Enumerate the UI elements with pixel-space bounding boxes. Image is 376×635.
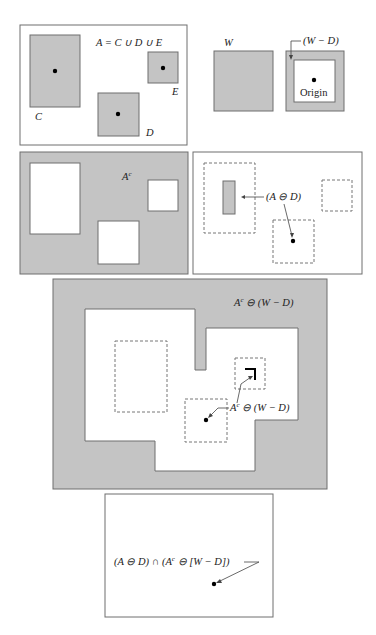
panel-intersection: (A ⊖ D) ∩ (Ac ⊖ [W − D]) bbox=[105, 494, 273, 617]
label-c: C bbox=[35, 111, 43, 122]
origin-dot bbox=[116, 112, 120, 116]
hole-c bbox=[30, 163, 80, 234]
hit-or-miss-result-dot bbox=[212, 582, 216, 586]
panel-erosion-ac-by-wd: Ac ⊖ (W − D) Ac ⊖ (W − D) bbox=[53, 279, 327, 489]
erosion-result-dot bbox=[291, 239, 295, 243]
label-e: E bbox=[171, 86, 179, 97]
wd-label: (W − D) bbox=[303, 35, 339, 47]
hole-d bbox=[98, 221, 139, 264]
result-dot bbox=[204, 418, 208, 422]
origin-dot bbox=[161, 66, 165, 70]
hole-e bbox=[148, 180, 178, 211]
window-w bbox=[214, 51, 273, 111]
label-d: D bbox=[145, 127, 154, 138]
origin-label: Origin bbox=[300, 87, 328, 98]
erosion-result-bar bbox=[223, 181, 235, 214]
label-w: W bbox=[224, 37, 234, 48]
panel-erosion-a-by-d: (A ⊖ D) bbox=[193, 152, 362, 274]
panel-structuring-elements: W Origin (W − D) bbox=[214, 35, 344, 111]
hit-or-miss-figure: A = C ∪ D ∪ E C D E W Origin (W − D) Ac bbox=[0, 0, 376, 635]
erosion-a-d-label: (A ⊖ D) bbox=[266, 191, 302, 203]
panel-set-a: A = C ∪ D ∪ E C D E bbox=[20, 25, 187, 145]
origin-dot bbox=[53, 69, 57, 73]
set-a-label: A = C ∪ D ∪ E bbox=[95, 37, 163, 48]
panel-complement: Ac bbox=[20, 152, 188, 274]
origin-dot bbox=[312, 78, 316, 82]
